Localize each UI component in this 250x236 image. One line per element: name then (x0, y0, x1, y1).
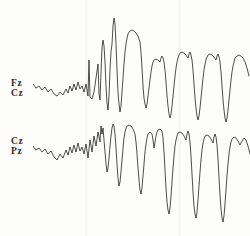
channel-label-fz-cz-line1: Fz (11, 78, 23, 88)
eeg-figure: Fz Cz Cz Pz (0, 0, 250, 236)
channel-leader-line-fz-cz (33, 84, 36, 88)
channel-label-cz-pz-line2: Pz (11, 146, 23, 156)
eeg-waveform-cz-pz (36, 124, 250, 222)
channel-label-fz-cz-line2: Cz (11, 88, 23, 98)
channel-label-cz-pz-line1: Cz (11, 136, 23, 146)
channel-label-fz-cz: Fz Cz (11, 78, 23, 98)
eeg-waveform-fz-cz (36, 18, 249, 122)
channel-leader-line-cz-pz (33, 146, 36, 150)
eeg-trace-canvas (0, 0, 250, 236)
channel-label-cz-pz: Cz Pz (11, 136, 23, 156)
